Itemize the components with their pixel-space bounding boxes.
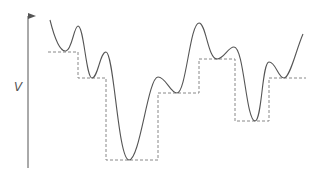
energy-landscape-diagram [0,0,320,177]
step-levels [48,52,306,160]
step-line [48,52,306,160]
axis-label-v: V [14,80,22,94]
potential-curve [50,20,303,160]
